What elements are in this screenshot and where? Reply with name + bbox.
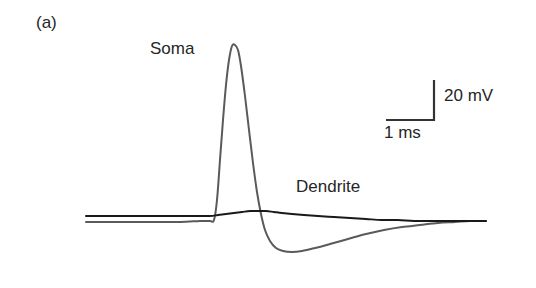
scale-bar-time-label: 1 ms	[384, 124, 421, 141]
series-layer	[86, 44, 486, 252]
trace-dendrite	[86, 211, 486, 221]
recording-traces-svg	[0, 0, 536, 288]
scale-bar-path	[386, 80, 434, 120]
scale-bar	[386, 80, 434, 120]
scale-bar-voltage-label: 20 mV	[444, 87, 493, 104]
dendrite-trace-label: Dendrite	[296, 178, 360, 195]
figure-panel: (a) Soma Dendrite 20 mV 1 ms	[0, 0, 536, 288]
soma-trace-label: Soma	[150, 40, 194, 57]
panel-letter-label: (a)	[36, 14, 57, 31]
